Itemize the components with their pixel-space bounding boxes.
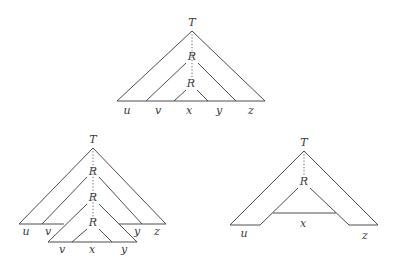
label-x: x xyxy=(89,243,96,256)
r3-left-leg xyxy=(72,229,87,242)
r-right-leg xyxy=(310,188,349,225)
label-u: u xyxy=(22,225,29,238)
r1-left-leg xyxy=(42,177,87,224)
r2-left-leg xyxy=(174,90,186,101)
label-u: u xyxy=(123,104,130,117)
label-y-lower: y xyxy=(120,243,128,256)
label-v: v xyxy=(45,225,52,238)
label-x: x xyxy=(300,217,307,230)
outer-triangle xyxy=(117,31,265,101)
outer-right-leg xyxy=(93,148,166,224)
label-T: T xyxy=(89,133,98,146)
label-y: y xyxy=(133,225,141,238)
outer-right-leg xyxy=(304,151,378,225)
r1-right-leg xyxy=(99,177,142,224)
r-left-leg xyxy=(260,188,298,225)
outer-left-leg xyxy=(19,148,93,224)
label-z: z xyxy=(361,229,368,242)
r1-right-leg xyxy=(198,63,236,101)
label-R1: R xyxy=(88,165,97,178)
label-z: z xyxy=(247,104,254,117)
outer-left-leg xyxy=(230,151,304,225)
r2-left-leg xyxy=(48,204,87,242)
label-z: z xyxy=(153,225,160,238)
label-u: u xyxy=(240,227,247,240)
tree-pumping-diagram: T R R u v x y z T R R xyxy=(0,0,402,265)
label-R1: R xyxy=(187,50,196,63)
label-T: T xyxy=(188,16,197,29)
label-T: T xyxy=(300,136,309,149)
label-R2: R xyxy=(88,191,97,204)
label-v-lower: v xyxy=(59,243,66,256)
r2-right-leg xyxy=(197,90,208,101)
label-y: y xyxy=(215,104,223,117)
r3-right-leg xyxy=(99,229,112,242)
bottom-left-tree: T R R R u v y z v x y xyxy=(19,133,166,256)
label-x: x xyxy=(186,104,193,117)
top-tree: T R R u v x y z xyxy=(117,16,265,117)
label-R2: R xyxy=(186,77,195,90)
label-v: v xyxy=(155,104,162,117)
r2-right-leg xyxy=(99,204,137,242)
bottom-right-tree: T R u x z xyxy=(230,136,378,242)
label-R: R xyxy=(299,175,308,188)
label-R3: R xyxy=(88,216,97,229)
